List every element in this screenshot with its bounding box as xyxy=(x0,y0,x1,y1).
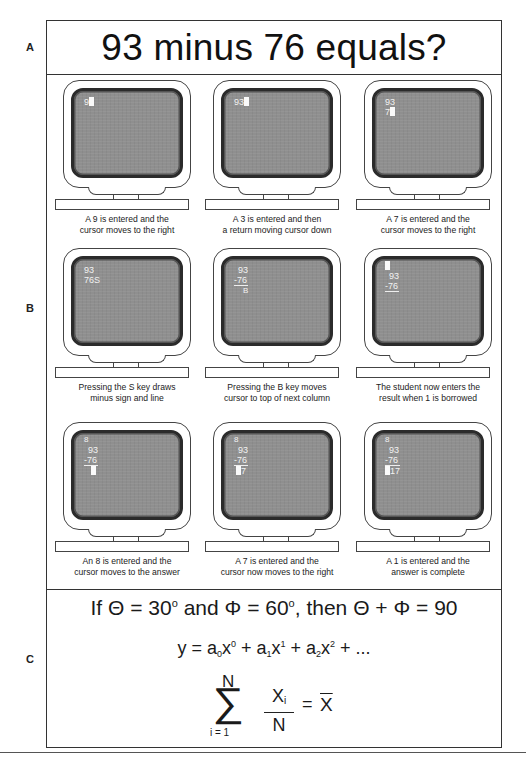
screen-text: 893-767 xyxy=(234,435,248,476)
cursor-block xyxy=(244,97,249,106)
panel-caption: A 1 is entered and theanswer is complete xyxy=(349,556,507,577)
panel-4: 9376S Pressing the S key drawsminus sign… xyxy=(48,242,198,414)
polynomial-equation: y = a0x0 + a1x1 + a2x2 + ... xyxy=(47,638,501,659)
screen-text: 9376S xyxy=(84,265,100,285)
keyboard-icon xyxy=(356,367,490,378)
figure-frame: 93 minus 76 equals? 9 A 9 is entered and… xyxy=(46,20,502,748)
monitor-icon: 93-76 xyxy=(364,248,492,356)
keyboard-icon xyxy=(55,367,189,378)
sum-lower-limit: i = 1 xyxy=(210,727,229,738)
screen-text: 93-76B xyxy=(234,265,248,296)
bottom-rule xyxy=(0,752,526,753)
mean-symbol: X xyxy=(320,694,333,716)
monitor-icon: 937 xyxy=(364,80,492,188)
fraction-numerator: Xi xyxy=(264,685,294,713)
monitor-screen: 93-76 xyxy=(372,256,484,346)
panel-caption: A 9 is entered and thecursor moves to th… xyxy=(48,214,206,235)
panel-8: 893-767 A 7 is entered and thecursor now… xyxy=(198,416,348,588)
monitor-screen: 93 xyxy=(221,88,333,178)
monitor-icon: 9 xyxy=(63,80,191,188)
screen-text: 93-76 xyxy=(385,261,399,292)
keyboard-icon xyxy=(205,199,339,210)
keyboard-icon xyxy=(205,541,339,552)
monitor-panel-grid: 9 A 9 is entered and thecursor moves to … xyxy=(47,74,501,589)
keyboard-icon xyxy=(356,199,490,210)
monitor-screen: 893-7617 xyxy=(372,430,484,520)
screen-text: 893-76 xyxy=(84,435,98,476)
mean-equation: N ∑ i = 1 Xi N = X xyxy=(202,672,362,744)
panel-caption: An 8 is entered and thecursor moves to t… xyxy=(48,556,206,577)
screen-text: 937 xyxy=(385,97,395,117)
panel-2: 93 A 3 is entered and thena return movin… xyxy=(198,74,348,246)
screen-text: 893-7617 xyxy=(385,435,400,476)
monitor-icon: 893-7617 xyxy=(364,422,492,530)
monitor-icon: 93 xyxy=(213,80,341,188)
equals-sign: = xyxy=(302,694,313,715)
monitor-screen: 893-767 xyxy=(221,430,333,520)
monitor-icon: 93-76B xyxy=(213,248,341,356)
panel-1: 9 A 9 is entered and thecursor moves to … xyxy=(48,74,198,246)
keyboard-icon xyxy=(55,199,189,210)
cursor-block xyxy=(89,97,94,106)
panel-caption: The student now enters theresult when 1 … xyxy=(349,382,507,403)
cursor-block xyxy=(91,466,96,475)
sigma-icon: ∑ xyxy=(213,682,244,722)
section-label-b: B xyxy=(26,302,34,314)
keyboard-icon xyxy=(55,541,189,552)
panel-caption: A 7 is entered and thecursor moves to th… xyxy=(349,214,507,235)
equations-section: If Θ = 30o and Φ = 60o, then Θ + Φ = 90 … xyxy=(47,589,501,748)
screen-text: 93 xyxy=(234,97,249,107)
monitor-screen: 893-76 xyxy=(71,430,183,520)
keyboard-icon xyxy=(205,367,339,378)
panel-3: 937 A 7 is entered and thecursor moves t… xyxy=(349,74,499,246)
monitor-screen: 93-76B xyxy=(221,256,333,346)
screen-text: 9 xyxy=(84,97,94,107)
panel-caption: A 3 is entered and thena return moving c… xyxy=(198,214,356,235)
cursor-block xyxy=(385,261,390,270)
monitor-screen: 9 xyxy=(71,88,183,178)
angle-equation: If Θ = 30o and Φ = 60o, then Θ + Φ = 90 xyxy=(47,596,501,620)
panel-5: 93-76B Pressing the B key movescursor to… xyxy=(198,242,348,414)
monitor-icon: 893-76 xyxy=(63,422,191,530)
monitor-screen: 937 xyxy=(372,88,484,178)
section-label-a: A xyxy=(26,41,34,53)
panel-caption: Pressing the S key drawsminus sign and l… xyxy=(48,382,206,403)
keyboard-icon xyxy=(356,541,490,552)
problem-title: 93 minus 76 equals? xyxy=(47,21,501,75)
fraction: Xi N xyxy=(264,685,294,737)
panel-caption: Pressing the B key movescursor to top of… xyxy=(198,382,356,403)
section-label-c: C xyxy=(26,653,34,665)
panel-6: 93-76 The student now enters theresult w… xyxy=(349,242,499,414)
fraction-denominator: N xyxy=(264,713,294,737)
panel-7: 893-76 An 8 is entered and thecursor mov… xyxy=(48,416,198,588)
panel-caption: A 7 is entered and thecursor now moves t… xyxy=(198,556,356,577)
monitor-icon: 893-767 xyxy=(213,422,341,530)
monitor-icon: 9376S xyxy=(63,248,191,356)
panel-9: 893-7617 A 1 is entered and theanswer is… xyxy=(349,416,499,588)
monitor-screen: 9376S xyxy=(71,256,183,346)
cursor-block xyxy=(390,107,395,116)
